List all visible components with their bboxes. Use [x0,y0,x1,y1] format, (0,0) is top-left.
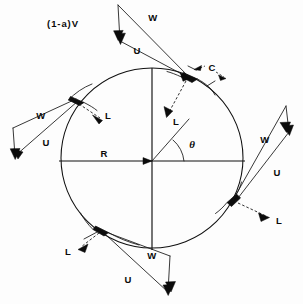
freestream-velocity-label: (1-a)V [47,18,79,29]
vector-W-top-label: W [148,12,157,23]
blade-right [227,194,241,207]
radius-arrowhead [143,158,152,165]
theta-arc [173,140,184,161]
blade-bottom [93,226,109,236]
radius-label: R [100,148,107,159]
vector-L-right-label: L [276,215,282,226]
chord-arrowhead-right [219,75,227,81]
vector-U-bottom-label: U [124,274,131,285]
vector-W-right [233,106,286,200]
vector-W-bottom [103,231,170,256]
vector-L-right-shaft [238,203,266,216]
figure-container: R θ [0,0,303,304]
vector-L-bottom-shaft [81,233,99,247]
vector-U-bottom [105,234,168,292]
vector-L-top-label: L [173,116,179,127]
vector-W-bottom-label: W [147,250,156,261]
vector-U-right-label: U [273,167,280,178]
vector-L-bottom-shaft-2 [84,231,99,239]
vector-L-bottom-label: L [65,246,71,257]
theta-ray [152,119,189,161]
chord-arrowhead-left [194,66,202,71]
chord-label: C [208,62,215,73]
theta-label: θ [189,138,195,150]
vector-U-top-label: U [133,45,140,56]
station-left: W U L [10,84,111,160]
vector-W-left-label: W [36,110,45,121]
vawt-velocity-diagram: R θ [0,0,303,304]
vector-L-left-shaft [79,104,100,118]
vector-L-right-arrowhead [259,213,270,222]
vector-L-left-label: L [105,110,111,121]
vector-L-left-arrowhead [93,115,103,124]
station-top: C W U L (1-a)V [47,5,226,127]
vector-L-top-shaft [168,81,186,114]
vector-L-top-arrowhead [164,107,173,118]
vector-W-right-label: W [260,134,269,145]
chord-dim-tick-right [207,81,215,86]
blade-left-tail [84,103,97,111]
station-bottom: W U L [65,213,176,296]
vector-U-left-label: U [42,137,49,148]
